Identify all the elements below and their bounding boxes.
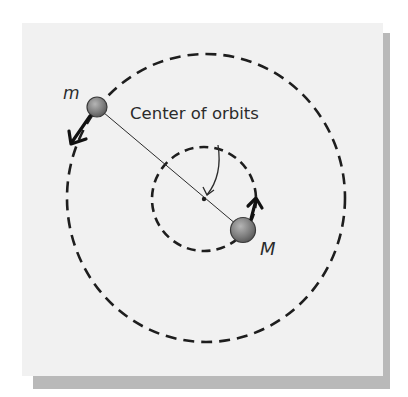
small-mass-label: m <box>63 83 80 103</box>
large-mass-ball <box>231 218 256 243</box>
outer-orbit <box>67 54 345 342</box>
small-mass-ball <box>87 97 107 117</box>
center-of-orbits-label: Center of orbits <box>130 104 259 123</box>
connecting-line <box>97 107 243 230</box>
center-pointer-arrow <box>207 145 219 195</box>
center-dot <box>202 197 206 201</box>
orbit-diagram: m M Center of orbits <box>0 0 408 397</box>
large-mass-label: M <box>260 238 276 259</box>
